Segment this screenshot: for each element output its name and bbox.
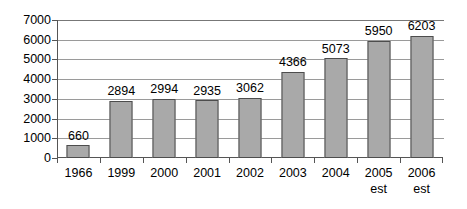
bar-chart: 01000200030004000500060007000 6602894299… <box>0 0 467 209</box>
x-axis-category-label-line1: 2004 <box>322 166 350 180</box>
x-axis-category-label-line1: 1999 <box>107 166 135 180</box>
bar-value-label: 4366 <box>279 56 307 69</box>
y-axis-tick-mark <box>52 79 57 80</box>
bar-slot: 4366 <box>271 20 314 158</box>
x-axis-category-label: 1966 <box>57 166 100 182</box>
x-axis-tick-mark <box>100 158 101 163</box>
x-axis-category-label-line1: 2003 <box>279 166 307 180</box>
bar[interactable] <box>367 41 390 158</box>
x-axis-category-label: 2001 <box>186 166 229 182</box>
bar[interactable] <box>196 100 219 158</box>
y-axis-tick-mark <box>52 138 57 139</box>
bar-slot: 660 <box>57 20 100 158</box>
y-axis-tick-label: 1000 <box>6 132 51 145</box>
x-axis-tick-mark <box>271 158 272 163</box>
x-axis-tick-mark <box>57 158 58 163</box>
x-axis-tick-mark <box>143 158 144 163</box>
bar-value-label: 2994 <box>150 83 178 96</box>
x-axis-category-label: 2000 <box>143 166 186 182</box>
y-axis-tick-label: 3000 <box>6 93 51 106</box>
x-axis-tick-labels: 19661999200020012002200320042005est2006e… <box>57 158 443 209</box>
bar-value-label: 660 <box>68 130 89 143</box>
y-axis-tick-label: 7000 <box>6 14 51 27</box>
bar[interactable] <box>281 72 304 158</box>
x-axis-category-label: 2005est <box>357 166 400 197</box>
y-axis-tick-label: 5000 <box>6 53 51 66</box>
bars-layer: 66028942994293530624366507359506203 <box>57 20 443 158</box>
x-axis-category-label: 2004 <box>314 166 357 182</box>
y-axis-tick-mark <box>52 20 57 21</box>
x-axis-category-label-line1: 1966 <box>65 166 93 180</box>
x-axis-category-label-line1: 2001 <box>193 166 221 180</box>
y-axis-tick-label: 4000 <box>6 73 51 86</box>
bar[interactable] <box>110 101 133 158</box>
bar-value-label: 5073 <box>322 43 350 56</box>
y-axis-tick-mark <box>52 158 57 159</box>
x-axis-tick-mark <box>442 158 443 163</box>
x-axis-category-label-line2: est <box>357 182 400 198</box>
bar[interactable] <box>67 145 90 158</box>
y-axis-tick-mark <box>52 99 57 100</box>
x-axis-category-label-line1: 2005 <box>365 166 393 180</box>
bar-value-label: 2894 <box>107 85 135 98</box>
x-axis-category-label: 2002 <box>229 166 272 182</box>
x-axis-category-label: 1999 <box>100 166 143 182</box>
x-axis-tick-mark <box>314 158 315 163</box>
y-axis-tick-mark <box>52 119 57 120</box>
bar-slot: 6203 <box>400 20 443 158</box>
x-axis-category-label-line1: 2006 <box>408 166 436 180</box>
bar-slot: 5073 <box>314 20 357 158</box>
bar-value-label: 2935 <box>193 85 221 98</box>
x-axis-tick-mark <box>186 158 187 163</box>
y-axis-tick-label: 0 <box>6 152 51 165</box>
bar-slot: 5950 <box>357 20 400 158</box>
y-axis-tick-label: 6000 <box>6 33 51 46</box>
bar-value-label: 5950 <box>365 25 393 38</box>
bar[interactable] <box>153 99 176 158</box>
x-axis-category-label-line1: 2000 <box>150 166 178 180</box>
y-axis-tick-mark <box>52 40 57 41</box>
x-axis-tick-mark <box>357 158 358 163</box>
bar[interactable] <box>410 36 433 158</box>
bar[interactable] <box>238 98 261 158</box>
bar[interactable] <box>324 58 347 158</box>
bar-slot: 2935 <box>186 20 229 158</box>
x-axis-category-label: 2006est <box>400 166 443 197</box>
x-axis-category-label-line1: 2002 <box>236 166 264 180</box>
x-axis-tick-mark <box>400 158 401 163</box>
y-axis-tick-labels: 01000200030004000500060007000 <box>6 0 51 209</box>
bar-slot: 2994 <box>143 20 186 158</box>
x-axis-category-label: 2003 <box>271 166 314 182</box>
x-axis-category-label-line2: est <box>400 182 443 198</box>
y-axis-tick-label: 2000 <box>6 112 51 125</box>
y-axis-tick-mark <box>52 59 57 60</box>
bar-value-label: 6203 <box>408 20 436 33</box>
bar-slot: 2894 <box>100 20 143 158</box>
x-axis-tick-mark <box>229 158 230 163</box>
bar-slot: 3062 <box>229 20 272 158</box>
bar-value-label: 3062 <box>236 82 264 95</box>
